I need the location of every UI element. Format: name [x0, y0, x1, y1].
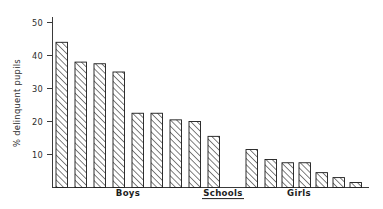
- group-label-girls: Girls: [287, 188, 311, 198]
- y-tick-label-30: 30: [32, 84, 43, 94]
- bar: [170, 120, 182, 188]
- bar: [151, 113, 163, 187]
- bar: [350, 183, 362, 188]
- bar: [56, 42, 68, 187]
- bar: [246, 150, 258, 188]
- group-label-boys: Boys: [116, 188, 140, 198]
- bar: [265, 159, 277, 187]
- bar: [113, 72, 125, 188]
- y-tick-label-50: 50: [32, 18, 43, 28]
- y-tick-label-40: 40: [32, 51, 43, 61]
- bar: [208, 136, 220, 187]
- chart-figure: 50 40 30 20 10 % delinquent pupils Boys …: [0, 0, 383, 209]
- bar: [333, 178, 345, 188]
- bar: [75, 62, 87, 187]
- y-axis-title: % delinquent pupils: [12, 59, 22, 147]
- bar: [94, 64, 106, 188]
- bar: [189, 122, 201, 188]
- y-tick-label-20: 20: [32, 117, 43, 127]
- bar: [132, 113, 144, 187]
- bar-chart-canvas: 50 40 30 20 10 % delinquent pupils Boys …: [0, 0, 383, 209]
- group-label-schools: Schools: [203, 188, 242, 198]
- y-tick-label-10: 10: [32, 150, 43, 160]
- bar: [316, 173, 328, 188]
- group-label-schools-wrap: Schools: [202, 188, 244, 199]
- bar: [282, 163, 294, 188]
- bar: [299, 163, 311, 188]
